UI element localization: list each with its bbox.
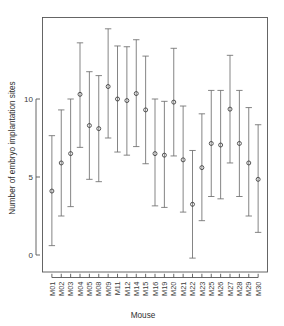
x-tick-label: M20 [169, 282, 178, 296]
x-tick-label: M14 [132, 282, 141, 296]
x-tick-label: M09 [104, 282, 113, 296]
errorbar-group [114, 46, 120, 152]
chart-root: 0510 M01M02M03M04M05M08M09M11M12M14M15M1… [0, 0, 284, 326]
errorbar-group [105, 29, 111, 138]
y-axis-title: Number of embryo implantation sites [8, 81, 17, 214]
x-tick-label: M27 [226, 282, 235, 296]
x-tick-label: M04 [76, 282, 85, 296]
x-tick-label: M29 [244, 282, 253, 296]
errorbar-group [236, 90, 242, 196]
x-tick-label: M03 [66, 282, 75, 296]
errorbar-group [49, 136, 55, 246]
x-tick-label: M25 [207, 282, 216, 296]
errorbar-plot: 0510 M01M02M03M04M05M08M09M11M12M14M15M1… [0, 0, 284, 326]
y-tick-label: 10 [24, 95, 33, 104]
errorbar-group [227, 55, 233, 163]
x-tick-label: M22 [188, 282, 197, 296]
errorbar-group [180, 106, 186, 212]
errorbar-group [217, 90, 223, 198]
x-tick-label: M11 [113, 282, 122, 296]
y-tick-label: 0 [29, 251, 34, 260]
y-tick-label: 5 [29, 173, 34, 182]
x-tick-label: M02 [57, 282, 66, 296]
x-axis: M01M02M03M04M05M08M09M11M12M14M15M16M19M… [48, 274, 263, 296]
errorbar-group [161, 101, 167, 207]
errorbar-group [199, 114, 205, 221]
errorbar-group [124, 47, 130, 155]
y-axis: 0510 [24, 95, 40, 260]
x-tick-label: M08 [94, 282, 103, 296]
x-tick-label: M15 [141, 282, 150, 296]
errorbar-group [96, 76, 102, 182]
x-tick-label: M23 [198, 282, 207, 296]
x-axis-title: Mouse [131, 311, 156, 320]
errorbar-group [189, 150, 195, 258]
x-tick-label: M30 [254, 282, 263, 296]
errorbar-group [208, 90, 214, 196]
x-tick-label: M28 [235, 282, 244, 296]
x-tick-label: M26 [216, 282, 225, 296]
errorbar-group [152, 99, 158, 206]
errorbar-group [246, 108, 252, 216]
errorbar-group [86, 72, 92, 180]
x-tick-label: M19 [160, 282, 169, 296]
errorbar-group [255, 125, 261, 233]
x-tick-label: M12 [123, 282, 132, 296]
errorbar-group [171, 48, 177, 156]
errorbar-group [67, 99, 73, 207]
x-tick-label: M21 [179, 282, 188, 296]
errorbar-group [58, 110, 64, 216]
x-tick-label: M16 [151, 282, 160, 296]
x-tick-label: M01 [48, 282, 57, 296]
x-tick-label: M05 [85, 282, 94, 296]
errorbar-group [133, 40, 139, 147]
errorbar-group [77, 43, 83, 148]
data-layer [49, 29, 262, 258]
errorbar-group [142, 56, 148, 164]
